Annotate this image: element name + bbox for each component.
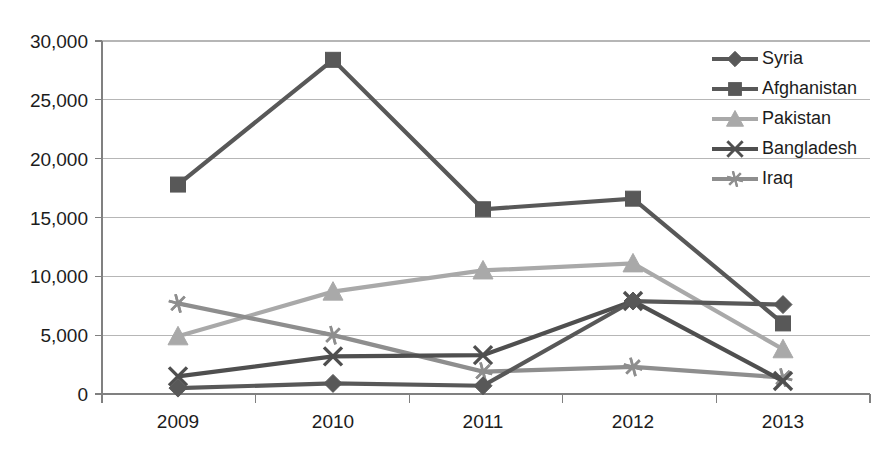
- x-axis-tick-label: 2010: [312, 411, 354, 432]
- data-point-marker-diamond: [324, 374, 342, 392]
- series-pakistan: [168, 253, 793, 357]
- data-point-marker-diamond: [774, 296, 792, 314]
- legend-item-bangladesh[interactable]: Bangladesh: [712, 138, 857, 158]
- data-point-marker-triangle: [773, 339, 793, 358]
- y-axis-tick-labels: 30,00025,00020,00015,00010,0005,0000: [30, 31, 88, 405]
- legend-label-bangladesh: Bangladesh: [762, 138, 857, 158]
- y-axis-tick-label: 25,000: [30, 90, 88, 111]
- y-axis-tick-label: 30,000: [30, 31, 88, 52]
- x-axis-tick-label: 2013: [762, 411, 804, 432]
- series-afghanistan: [171, 52, 791, 331]
- data-series: [168, 52, 793, 397]
- legend-label-afghanistan: Afghanistan: [762, 78, 857, 98]
- y-axis-tick-label: 5,000: [40, 325, 88, 346]
- data-point-marker-square: [626, 191, 641, 206]
- legend-label-iraq: Iraq: [762, 168, 793, 188]
- y-axis-tick-label: 15,000: [30, 208, 88, 229]
- line-chart: 30,00025,00020,00015,00010,0005,0000 200…: [0, 0, 895, 451]
- legend-label-pakistan: Pakistan: [762, 108, 831, 128]
- legend-item-iraq[interactable]: Iraq: [712, 168, 793, 188]
- data-point-marker-square: [476, 202, 491, 217]
- legend-item-syria[interactable]: Syria: [712, 48, 804, 68]
- gridlines: [102, 41, 870, 394]
- data-point-marker-square: [776, 316, 791, 331]
- series-iraq: [169, 294, 792, 386]
- y-axis-tick-label: 10,000: [30, 266, 88, 287]
- data-point-marker-diamond: [474, 377, 492, 395]
- data-point-marker-square: [171, 177, 186, 192]
- series-syria: [169, 292, 792, 397]
- legend-item-afghanistan[interactable]: Afghanistan: [712, 78, 857, 98]
- data-point-marker-square: [326, 52, 341, 67]
- tick-marks: [95, 41, 870, 403]
- x-axis-tick-labels: 20092010201120122013: [157, 411, 804, 432]
- legend-item-pakistan[interactable]: Pakistan: [712, 108, 831, 128]
- chart-legend: SyriaAfghanistanPakistanBangladeshIraq: [712, 48, 857, 188]
- y-axis-tick-label: 0: [77, 384, 88, 405]
- x-axis-tick-label: 2012: [612, 411, 654, 432]
- y-axis-tick-label: 20,000: [30, 149, 88, 170]
- x-axis-tick-label: 2011: [463, 411, 504, 432]
- data-point-marker-square: [729, 83, 742, 96]
- data-point-marker-diamond: [727, 51, 742, 66]
- x-axis-tick-label: 2009: [157, 411, 199, 432]
- legend-label-syria: Syria: [762, 48, 804, 68]
- chart-container: 30,00025,00020,00015,00010,0005,0000 200…: [0, 0, 895, 451]
